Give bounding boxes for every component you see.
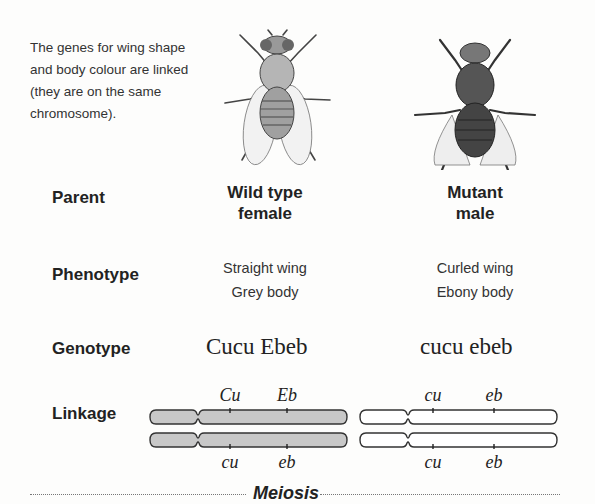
row-label-genotype: Genotype — [52, 339, 130, 359]
row-label-linkage: Linkage — [52, 404, 116, 424]
allele-label: cu — [418, 385, 448, 406]
allele-label: Eb — [272, 385, 302, 406]
intro-text: The genes for wing shape and body colour… — [30, 37, 200, 125]
allele-label: cu — [418, 452, 448, 473]
fruit-fly-wild-type-icon — [220, 25, 335, 170]
allele-label: cu — [215, 452, 245, 473]
mutant-parent-heading: Mutant male — [405, 182, 545, 224]
row-label-parent: Parent — [52, 188, 105, 208]
mutant-label: Mutant — [405, 182, 545, 203]
divider-left — [30, 494, 246, 495]
divider-right — [320, 494, 560, 495]
mutant-chromosome-pair — [358, 408, 560, 450]
body-phenotype: Grey body — [185, 280, 345, 304]
body-phenotype: Ebony body — [395, 280, 555, 304]
wing-phenotype: Straight wing — [185, 256, 345, 280]
meiosis-label: Meiosis — [253, 483, 319, 504]
female-label: female — [195, 203, 335, 224]
wing-phenotype: Curled wing — [395, 256, 555, 280]
row-label-phenotype: Phenotype — [52, 265, 139, 285]
mutant-genotype: cucu ebeb — [420, 334, 513, 360]
male-label: male — [405, 203, 545, 224]
fruit-fly-mutant-icon — [410, 35, 540, 170]
mutant-phenotype: Curled wing Ebony body — [395, 256, 555, 304]
wild-type-parent-heading: Wild type female — [195, 182, 335, 224]
wild-type-genotype: Cucu Ebeb — [206, 334, 308, 360]
wild-type-chromosome-pair — [148, 408, 350, 450]
allele-label: Cu — [215, 385, 245, 406]
allele-label: eb — [272, 452, 302, 473]
wild-type-label: Wild type — [195, 182, 335, 203]
wild-type-phenotype: Straight wing Grey body — [185, 256, 345, 304]
allele-label: eb — [479, 385, 509, 406]
allele-label: eb — [479, 452, 509, 473]
